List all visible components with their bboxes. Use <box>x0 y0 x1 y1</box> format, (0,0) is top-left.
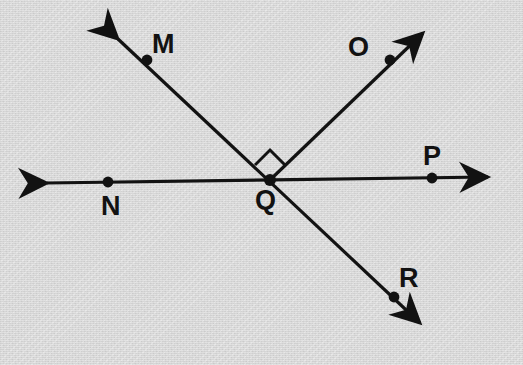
point-label-n: N <box>101 193 121 220</box>
right-angle-marker-icon <box>255 150 285 165</box>
point-label-r: R <box>399 265 419 292</box>
point-label-m: M <box>152 31 175 58</box>
point-label-p: P <box>423 143 441 170</box>
geometry-diagram-canvas: M O N Q P R <box>0 0 523 365</box>
point-dot-o <box>385 55 396 66</box>
point-dot-r <box>389 292 400 303</box>
ray-QO <box>270 33 423 180</box>
point-dot-m <box>142 55 153 66</box>
point-dot-p <box>427 173 438 184</box>
point-dot-n <box>103 177 114 188</box>
point-label-o: O <box>348 34 369 61</box>
point-label-q: Q <box>255 187 276 214</box>
geometry-svg <box>0 0 523 365</box>
